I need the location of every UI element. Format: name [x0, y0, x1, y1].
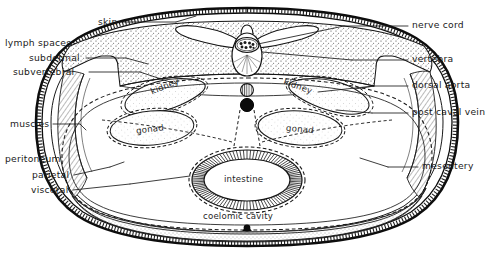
label-peritoneum: peritoneum: [5, 154, 61, 163]
label-lymph-spaces: lymph spaces: [5, 38, 71, 47]
label-subdermal: subdermal: [29, 53, 80, 62]
nerve-cord: [237, 39, 257, 51]
label-parietal: parietal: [32, 170, 69, 179]
anatomy-figure: lymph spaces subdermal subvertebral musc…: [0, 0, 494, 253]
organ-label-gonad-right: gonad: [286, 124, 315, 135]
label-nerve-cord: nerve cord: [412, 20, 464, 29]
label-post-caval-vein: post caval vein: [412, 107, 485, 116]
organ-label-coelomic-cavity: coelomic cavity: [203, 212, 273, 221]
ventral-keel-node: [244, 225, 251, 232]
label-dorsal-aorta: dorsal aorta: [412, 80, 470, 89]
label-mesentery: mesentery: [422, 161, 474, 170]
post-caval-vein: [240, 98, 253, 111]
organ-label-intestine: intestine: [224, 175, 263, 184]
label-vertebra: vertebra: [412, 54, 453, 63]
label-visceral: visceral: [31, 185, 68, 194]
dorsal-aorta: [241, 84, 254, 97]
label-muscles: muscles: [10, 119, 49, 128]
label-skin: skin: [98, 17, 117, 26]
label-subvertebral: subvertebral: [13, 67, 74, 76]
